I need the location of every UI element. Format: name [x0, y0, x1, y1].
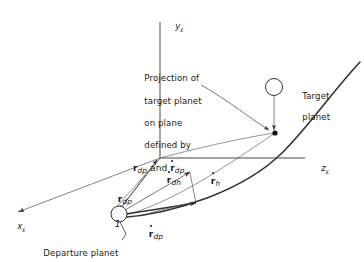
- callout-vec1-symbol: r: [133, 163, 138, 173]
- callout-vec1-sub: dp: [138, 166, 148, 175]
- vector-label-rdot-dp: rdp: [137, 218, 163, 253]
- orbital-geometry-diagram: yε zε xε Projection of target planet on …: [0, 0, 364, 262]
- vector-label-rdot-dh: rdh: [155, 164, 181, 199]
- vector-label-rdot-dh-sub: dh: [171, 178, 181, 187]
- vector-label-rdot-dp-sub: dp: [153, 232, 163, 241]
- callout-line-1: Projection of: [144, 73, 199, 83]
- vector-label-r-dp-sub: dp: [122, 197, 132, 206]
- departure-planet-label: Departure planet: [32, 237, 118, 262]
- projection-point-dot: [272, 130, 277, 135]
- z-axis-label: zε: [310, 152, 329, 187]
- vector-label-rdot-h-sub: h: [215, 179, 220, 188]
- vector-label-r-dp: rdp: [106, 183, 132, 218]
- x-axis-label-sub: ε: [22, 225, 25, 232]
- y-axis-label: yε: [164, 10, 184, 45]
- vector-label-rdot-h-symbol: r: [211, 176, 216, 187]
- departure-planet-leader-line: [120, 222, 126, 240]
- target-planet-circle: [266, 79, 283, 96]
- vector-label-rdot-dp-symbol: r: [149, 229, 154, 240]
- y-axis-label-sub: ε: [180, 25, 183, 32]
- vector-label-rdot-dh-symbol: r: [167, 175, 172, 186]
- node-1-label-text: 1: [115, 219, 121, 229]
- callout-line-4: defined by: [144, 140, 191, 150]
- x-axis-label: xε: [6, 210, 26, 245]
- departure-planet-label-text: Departure planet: [43, 248, 118, 258]
- callout-line-2: target planet: [144, 96, 201, 106]
- target-planet-label: Target planet: [291, 80, 330, 134]
- z-axis-label-sub: ε: [326, 167, 329, 174]
- target-planet-label-line-1: Target: [302, 91, 329, 101]
- vector-label-r-dp-symbol: r: [118, 194, 123, 204]
- vector-label-rdot-h: rh: [199, 165, 220, 200]
- target-planet-label-line-2: planet: [302, 112, 330, 122]
- callout-line-3: on plane: [144, 118, 182, 128]
